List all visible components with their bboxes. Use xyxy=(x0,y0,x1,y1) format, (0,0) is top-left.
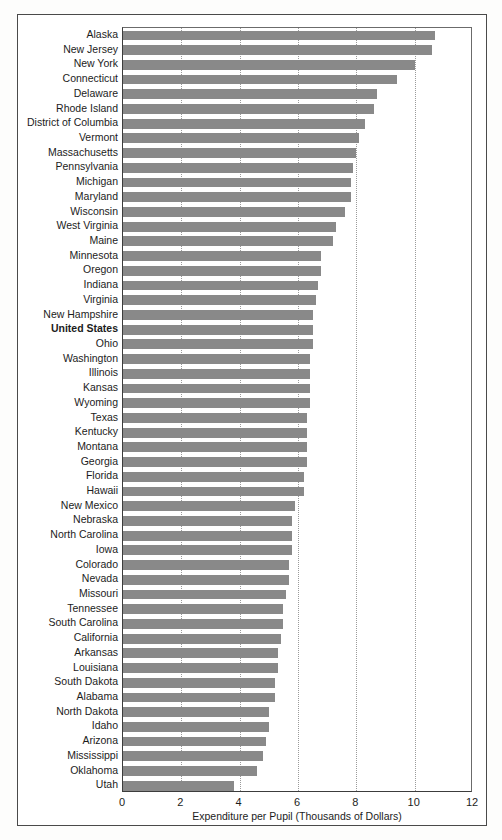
category-label: Rhode Island xyxy=(56,101,118,116)
x-tick-label: 0 xyxy=(119,795,125,809)
bar-row: Minnesota xyxy=(123,249,473,264)
bar xyxy=(123,501,295,511)
category-label: North Carolina xyxy=(50,527,118,542)
bar xyxy=(123,678,275,688)
category-label: Alabama xyxy=(77,689,118,704)
category-label: Michigan xyxy=(76,174,118,189)
bar xyxy=(123,693,275,703)
bar xyxy=(123,60,415,70)
bar xyxy=(123,119,365,129)
bar xyxy=(123,369,310,379)
bar-row: Rhode Island xyxy=(123,102,473,117)
bar xyxy=(123,384,310,394)
bar xyxy=(123,266,321,276)
bar xyxy=(123,487,304,497)
category-label: New Mexico xyxy=(61,498,118,513)
bar-row: Arizona xyxy=(123,734,473,749)
chart-figure: AlaskaNew JerseyNew YorkConnecticutDelaw… xyxy=(0,0,502,840)
bar xyxy=(123,560,289,570)
bar xyxy=(123,133,359,143)
category-label: South Dakota xyxy=(54,674,118,689)
bar xyxy=(123,281,318,291)
bar-row: New Hampshire xyxy=(123,308,473,323)
plot-area: AlaskaNew JerseyNew YorkConnecticutDelaw… xyxy=(122,27,472,792)
bar xyxy=(123,472,304,482)
category-label: Wyoming xyxy=(74,395,118,410)
category-label: Arizona xyxy=(82,733,118,748)
category-label: Tennessee xyxy=(67,601,118,616)
bar-row: New Jersey xyxy=(123,43,473,58)
category-label: Washington xyxy=(63,351,118,366)
category-label: Texas xyxy=(91,410,118,425)
bar-rows: AlaskaNew JerseyNew YorkConnecticutDelaw… xyxy=(123,28,471,791)
bar xyxy=(123,619,283,629)
bar-row: Michigan xyxy=(123,175,473,190)
category-label: Kentucky xyxy=(75,424,118,439)
bar-row: Nevada xyxy=(123,572,473,587)
category-label: Nebraska xyxy=(73,512,118,527)
x-tick-label: 4 xyxy=(236,795,242,809)
category-label: New York xyxy=(74,56,118,71)
bar-row: North Dakota xyxy=(123,705,473,720)
category-label: Louisiana xyxy=(73,660,118,675)
bar xyxy=(123,413,307,423)
bar-row: Arkansas xyxy=(123,646,473,661)
x-tick-label: 10 xyxy=(408,795,420,809)
category-label: Maine xyxy=(89,233,118,248)
bar-row: Texas xyxy=(123,411,473,426)
category-label: Massachusetts xyxy=(48,145,118,160)
bar-row: Wyoming xyxy=(123,396,473,411)
bar-row: North Carolina xyxy=(123,528,473,543)
bar xyxy=(123,163,353,173)
bar xyxy=(123,251,321,261)
bar-row: Connecticut xyxy=(123,72,473,87)
bar xyxy=(123,751,263,761)
bar-row: Kansas xyxy=(123,381,473,396)
bar-row: South Carolina xyxy=(123,616,473,631)
bar xyxy=(123,45,432,55)
bar xyxy=(123,604,283,614)
bar xyxy=(123,207,345,217)
category-label: Connecticut xyxy=(63,71,118,86)
category-label: Missouri xyxy=(79,586,118,601)
bar-row: Maine xyxy=(123,234,473,249)
bar xyxy=(123,707,269,717)
bar-row: Utah xyxy=(123,778,473,793)
category-label: Indiana xyxy=(84,277,118,292)
bar xyxy=(123,295,316,305)
category-label: Nevada xyxy=(82,571,118,586)
bar-row: Kentucky xyxy=(123,425,473,440)
bar-row: United States xyxy=(123,322,473,337)
bar-row: Oregon xyxy=(123,263,473,278)
bar xyxy=(123,89,377,99)
category-label: Maryland xyxy=(75,189,118,204)
bar xyxy=(123,737,266,747)
category-label: Oklahoma xyxy=(70,763,118,778)
category-label: New Jersey xyxy=(63,42,118,57)
category-label: Virginia xyxy=(83,292,118,307)
bar-row: Alabama xyxy=(123,690,473,705)
bar-row: Massachusetts xyxy=(123,146,473,161)
category-label: Ohio xyxy=(96,336,118,351)
bar xyxy=(123,178,351,188)
bar-row: Washington xyxy=(123,352,473,367)
category-label: South Carolina xyxy=(49,615,118,630)
category-label: Wisconsin xyxy=(70,204,118,219)
bar-row: Virginia xyxy=(123,293,473,308)
category-label: Iowa xyxy=(96,542,118,557)
category-label: Oregon xyxy=(83,262,118,277)
bar-row: Louisiana xyxy=(123,661,473,676)
category-label: United States xyxy=(51,321,118,336)
bar xyxy=(123,766,257,776)
bar-row: Alaska xyxy=(123,28,473,43)
bar-row: Idaho xyxy=(123,719,473,734)
bar-row: New Mexico xyxy=(123,499,473,514)
bar xyxy=(123,457,307,467)
x-tick-label: 6 xyxy=(294,795,300,809)
bar xyxy=(123,516,292,526)
category-label: Mississippi xyxy=(67,748,118,763)
bar-row: California xyxy=(123,631,473,646)
bar xyxy=(123,310,313,320)
x-axis-title: Expenditure per Pupil (Thousands of Doll… xyxy=(122,810,472,822)
bar-row: Mississippi xyxy=(123,749,473,764)
